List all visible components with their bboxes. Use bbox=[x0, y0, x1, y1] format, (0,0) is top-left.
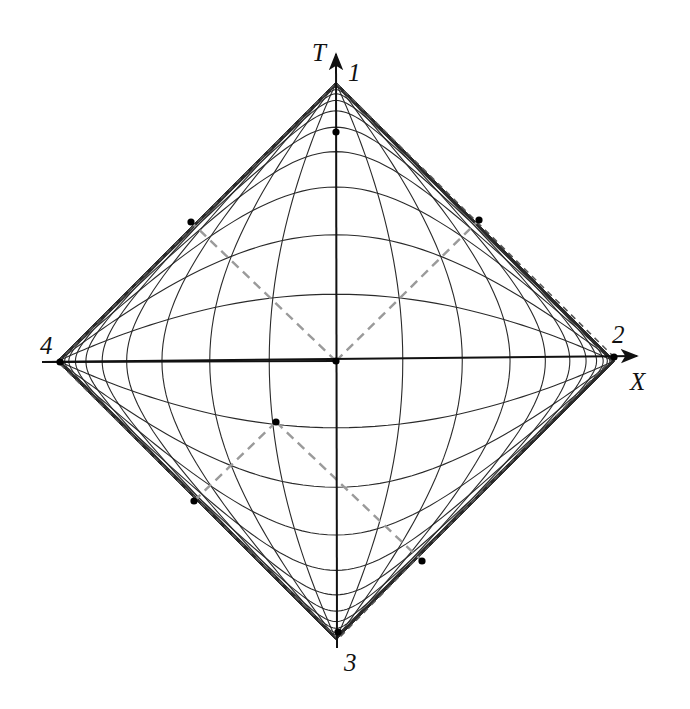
upper-right-boundary-point-dot bbox=[475, 216, 482, 223]
constant-x-curve bbox=[337, 84, 613, 638]
corner-label-3: 3 bbox=[344, 650, 357, 675]
constant-x-curve bbox=[336, 83, 597, 639]
event-p-dot bbox=[272, 418, 279, 425]
corner-label-4: 4 bbox=[40, 333, 53, 358]
t-axis-label: T bbox=[312, 40, 326, 65]
constant-x-curve bbox=[336, 83, 610, 639]
constant-x-curve bbox=[336, 83, 570, 639]
light-cone-ray bbox=[191, 222, 336, 361]
origin-dot bbox=[332, 357, 339, 364]
corner-label-2: 2 bbox=[612, 322, 625, 347]
x-axis-label: X bbox=[630, 369, 645, 394]
boundary-edge bbox=[336, 83, 614, 357]
vertex-2-dot bbox=[610, 353, 617, 360]
constant-x-curve bbox=[336, 83, 545, 639]
constant-x-curve bbox=[336, 83, 586, 639]
vertex-4-dot bbox=[56, 358, 63, 365]
constant-x-curve bbox=[336, 83, 403, 639]
light-cone-ray bbox=[336, 220, 479, 361]
constant-x-curve bbox=[336, 83, 603, 639]
upper-left-boundary-point-dot bbox=[187, 218, 194, 225]
t-axis bbox=[336, 54, 337, 648]
constant-x-curve bbox=[336, 83, 510, 639]
compactification-diagram bbox=[0, 0, 690, 709]
constant-x-curve bbox=[336, 83, 607, 639]
lower-right-boundary-point-dot bbox=[418, 557, 425, 564]
vertex-1-dot bbox=[332, 128, 339, 135]
vertex-3-dot bbox=[334, 628, 341, 635]
constant-x-curve bbox=[336, 83, 462, 639]
x-axis-left bbox=[44, 361, 336, 362]
light-cone-ray bbox=[194, 422, 276, 501]
light-cone-lines bbox=[191, 220, 479, 561]
corner-label-1: 1 bbox=[348, 60, 361, 85]
axes bbox=[42, 54, 637, 648]
constant-x-curve bbox=[337, 84, 613, 639]
lower-left-boundary-point-dot bbox=[190, 497, 197, 504]
